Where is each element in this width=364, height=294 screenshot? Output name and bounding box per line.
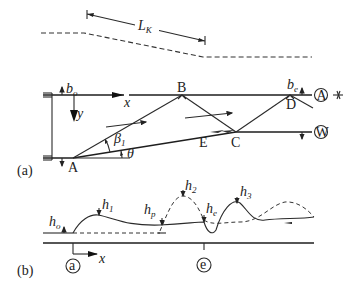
h2-label: h2 [185,178,197,195]
point-D-label: D [286,97,296,112]
panel-a-label: (a) [17,163,33,179]
deflected-wall [73,132,312,158]
point-C-label: C [231,135,240,150]
hp-label: hp [144,202,156,219]
h1-label: h1 [102,197,114,214]
x-axis-label: x [123,95,131,110]
panel-b-label: (b) [17,263,34,279]
diagram: LK [0,0,364,294]
wave-CD [236,95,290,132]
circle-A-label: A [317,88,328,103]
point-A-label: A [68,160,79,175]
he-label: he [206,201,217,218]
y-axis-label: y [75,106,84,121]
theta-label: θ [127,146,134,161]
x-axis-arrow-b-icon [88,251,98,257]
panel-a: A W B A E C D x y β1 θ bo be (a) [17,77,343,179]
panel-b: x a e ho h1 hp h2 he h3 (b) [17,178,314,279]
beta-label: β1 [113,131,125,148]
x-axis-label-b: x [98,251,106,266]
lk-arrow-right [198,38,205,42]
lk-arrow-left [87,13,94,17]
station-a-label: a [69,258,76,273]
circle-W-label: W [316,125,330,140]
point-B-label: B [177,80,186,95]
point-E-label: E [199,135,208,150]
be-label: be [287,77,298,94]
aircraft-icon [333,91,343,99]
x-axis-arrow-icon [112,92,124,98]
top-profile: LK [41,10,312,57]
h3-label: h3 [240,184,252,201]
wall-profile-dashed [41,33,312,57]
station-e-label: e [200,257,206,272]
flow-arrow-1 [106,122,146,127]
h0-label: ho [49,214,61,231]
b0-label: bo [66,81,78,98]
